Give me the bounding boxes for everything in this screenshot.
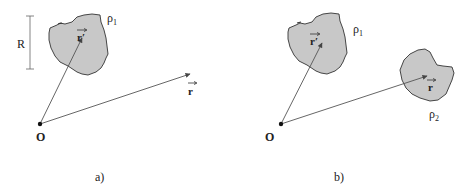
density-label: ρ1 bbox=[107, 11, 117, 27]
svg-text:r′: r′ bbox=[310, 35, 318, 47]
origin-point bbox=[38, 122, 42, 126]
origin-label: O bbox=[36, 130, 45, 144]
caption-b: b) bbox=[334, 170, 344, 184]
scale-bar bbox=[26, 16, 34, 69]
caption-a: a) bbox=[95, 170, 104, 184]
density2-label: ρ2 bbox=[429, 107, 439, 123]
density1-label: ρ1 bbox=[353, 22, 363, 38]
scale-label: R bbox=[17, 37, 25, 51]
field-vector-arrow bbox=[281, 76, 427, 124]
diagram-canvas: R ρ1 r′ r O a) ρ1 ρ2 bbox=[0, 0, 468, 193]
field-vector-label: r bbox=[188, 82, 197, 98]
mass-blob-rho2 bbox=[400, 49, 454, 101]
origin-label: O bbox=[265, 130, 274, 144]
origin-point bbox=[279, 122, 283, 126]
panel-a: R ρ1 r′ r O a) bbox=[17, 11, 197, 184]
svg-text:r: r bbox=[428, 81, 433, 93]
svg-text:r′: r′ bbox=[77, 31, 85, 43]
field-vector-arrow bbox=[40, 74, 190, 124]
svg-text:r: r bbox=[188, 85, 193, 97]
panel-b: ρ1 ρ2 r′ r O b) bbox=[265, 13, 454, 184]
